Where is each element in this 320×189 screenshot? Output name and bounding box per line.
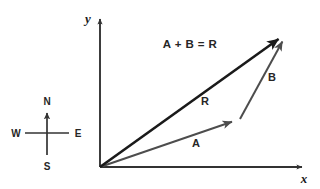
vector-a-line xyxy=(100,122,232,167)
compass-west-label: W xyxy=(11,128,21,139)
y-axis-label: y xyxy=(83,11,91,26)
vector-r-line xyxy=(100,39,279,167)
vector-a: A xyxy=(100,122,232,167)
compass-south-label: S xyxy=(44,161,51,172)
vector-r-label: R xyxy=(201,95,209,107)
vector-addition-figure: y x A B R A + B = R N S W E xyxy=(0,0,320,189)
compass-north-label: N xyxy=(43,96,50,107)
vector-r: R xyxy=(100,39,279,167)
figure-canvas: y x A B R A + B = R N S W E xyxy=(0,0,320,189)
vector-b-label: B xyxy=(268,71,276,83)
compass-rose: N S W E xyxy=(11,96,81,172)
vector-a-label: A xyxy=(192,137,200,149)
equation-annotation: A + B = R xyxy=(163,38,218,50)
compass-east-label: E xyxy=(75,128,82,139)
x-axis-label: x xyxy=(300,171,308,186)
